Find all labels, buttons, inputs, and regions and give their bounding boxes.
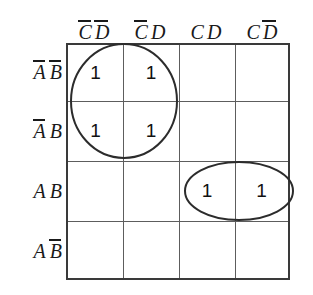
literal-a: A xyxy=(34,239,46,261)
row-header-0: AB xyxy=(4,56,62,86)
literal-b-not: B xyxy=(50,239,62,261)
kmap-cell-r1c1[interactable]: 1 xyxy=(123,101,179,161)
kmap-cell-r0c0[interactable]: 1 xyxy=(68,45,123,101)
literal-d-not: D xyxy=(263,20,277,42)
kmap-cell-r2c3[interactable]: 1 xyxy=(235,161,288,221)
kmap-cell-r3c1[interactable] xyxy=(123,221,179,278)
literal-b: B xyxy=(50,119,62,141)
literal-c-not: C xyxy=(79,20,92,42)
literal-d: D xyxy=(151,20,165,42)
kmap-cell-r1c3[interactable] xyxy=(235,101,288,161)
kmap-cell-r0c2[interactable] xyxy=(179,45,235,101)
column-header-1: CD xyxy=(122,12,178,42)
kmap-cell-r2c0[interactable] xyxy=(68,161,123,221)
row-header-1: AB xyxy=(4,115,62,145)
kmap-cell-r1c2[interactable] xyxy=(179,101,235,161)
kmap-cell-r3c3[interactable] xyxy=(235,221,288,278)
kmap-cell-r0c3[interactable] xyxy=(235,45,288,101)
karnaugh-map: CD CD CD CD AB AB AB AB 1 1 1 1 xyxy=(0,0,313,295)
literal-d-not: D xyxy=(95,20,109,42)
kmap-cell-r0c1[interactable]: 1 xyxy=(123,45,179,101)
kmap-cell-r2c1[interactable] xyxy=(123,161,179,221)
literal-b: B xyxy=(50,179,62,201)
kmap-cell-r3c0[interactable] xyxy=(68,221,123,278)
row-header-3: AB xyxy=(4,235,62,265)
literal-b-not: B xyxy=(50,60,62,82)
column-header-0: CD xyxy=(66,12,122,42)
row-header-2: AB xyxy=(4,175,62,205)
column-header-2: CD xyxy=(178,12,234,42)
literal-c: C xyxy=(191,20,204,42)
literal-d: D xyxy=(207,20,221,42)
kmap-cell-r3c2[interactable] xyxy=(179,221,235,278)
kmap-cell-r2c2[interactable]: 1 xyxy=(179,161,235,221)
literal-a-not: A xyxy=(34,119,46,141)
literal-c: C xyxy=(247,20,260,42)
column-header-3: CD xyxy=(234,12,290,42)
literal-a-not: A xyxy=(34,60,46,82)
literal-a: A xyxy=(34,179,46,201)
kmap-cell-r1c0[interactable]: 1 xyxy=(68,101,123,161)
kmap-grid: 1 1 1 1 1 1 xyxy=(66,43,290,280)
literal-c-not: C xyxy=(135,20,148,42)
